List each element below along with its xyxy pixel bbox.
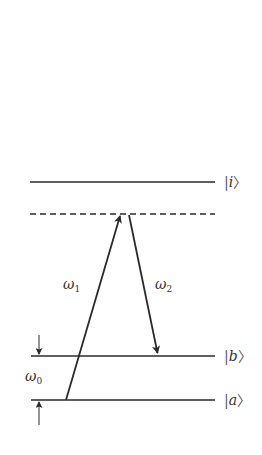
level-b-label: |b〉 bbox=[224, 348, 252, 365]
level-a: |a〉 bbox=[31, 392, 251, 409]
omega0-label: ω0 bbox=[25, 368, 42, 386]
splitting-omega0: ω0 bbox=[25, 335, 42, 425]
level-a-label: |a〉 bbox=[224, 392, 251, 409]
omega2-arrow-icon bbox=[129, 215, 158, 353]
energy-level-diagram: |i〉 |b〉 |a〉 ω1 ω2 ω0 bbox=[0, 0, 262, 455]
level-i: |i〉 bbox=[30, 174, 247, 191]
level-b: |b〉 bbox=[31, 348, 252, 365]
level-i-label: |i〉 bbox=[224, 174, 247, 191]
transition-omega1: ω1 bbox=[63, 216, 120, 400]
omega1-label: ω1 bbox=[63, 276, 80, 294]
omega2-label: ω2 bbox=[155, 276, 172, 294]
omega1-arrow-icon bbox=[66, 216, 120, 400]
transition-omega2: ω2 bbox=[129, 215, 172, 353]
